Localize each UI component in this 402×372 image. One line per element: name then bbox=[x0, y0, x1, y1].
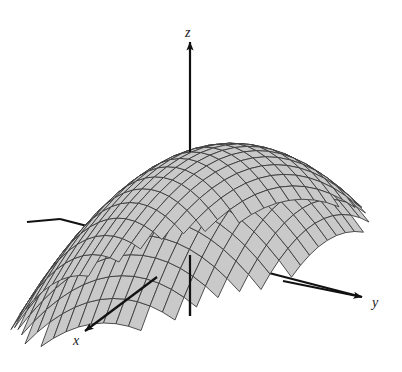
y-axis-visible-segment bbox=[283, 281, 362, 297]
surface-plot-svg: x y z bbox=[0, 0, 402, 372]
mesh-surface bbox=[11, 143, 369, 346]
x-axis-far-stub bbox=[27, 219, 60, 222]
surface-figure: x y z bbox=[0, 0, 402, 372]
axis-label-x: x bbox=[72, 333, 80, 348]
axis-label-y: y bbox=[370, 295, 379, 310]
axis-label-z: z bbox=[184, 25, 191, 40]
